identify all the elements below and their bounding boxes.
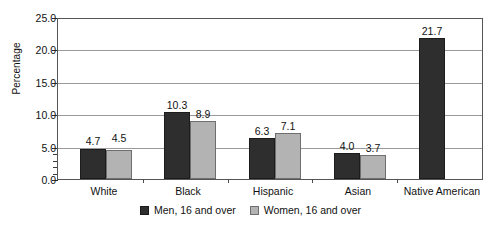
category-divider-4 [397,179,398,183]
category-label-hispanic: Hispanic [231,185,315,197]
chart-legend: Men, 16 and over Women, 16 and over [0,205,501,216]
legend-item-women[interactable]: Women, 16 and over [250,205,361,216]
women-swatch-icon [250,206,259,215]
bar-value-hispanic-men: 6.3 [249,126,275,137]
bar-value-white-women: 4.5 [106,133,132,144]
bar-value-hispanic-women: 7.1 [275,121,301,132]
legend-label-women: Women, 16 and over [264,205,361,216]
bar-black-women[interactable] [190,121,216,179]
y-tick-15: 15.0 [16,78,56,88]
legend-label-men: Men, 16 and over [154,205,236,216]
bar-value-black-women: 8.9 [190,109,216,120]
y-tick-0: 0.0 [16,175,56,185]
y-tick-25: 25.0 [16,13,56,23]
bar-value-asian-women: 3.7 [360,143,386,154]
bar-asian-men[interactable] [334,153,360,179]
bar-value-asian-men: 4.0 [334,141,360,152]
bar-white-women[interactable] [106,150,132,179]
men-swatch-icon [140,206,149,215]
bar-asian-women[interactable] [360,155,386,179]
bar-native-american-men[interactable] [419,38,445,179]
category-label-white: White [62,185,146,197]
y-tick-10: 10.0 [16,110,56,120]
plot-area: 4.7 4.5 10.3 8.9 6.3 7.1 4.0 3.7 21.7 [57,18,483,180]
category-divider-3 [312,179,313,183]
category-label-black: Black [146,185,230,197]
tick-mark-0 [52,180,58,181]
y-axis-tick-labels: 25.0 20.0 15.0 10.0 5.0 0.0 [16,0,56,230]
bar-white-men[interactable] [80,149,106,180]
bar-hispanic-men[interactable] [249,138,275,179]
category-divider-1 [143,179,144,183]
category-label-asian: Asian [316,185,400,197]
y-tick-5: 5.0 [16,143,56,153]
category-divider-2 [228,179,229,183]
y-tick-20: 20.0 [16,45,56,55]
bar-value-native-american-men: 21.7 [419,26,445,37]
bar-value-white-men: 4.7 [80,136,106,147]
bar-chart: Percentage 25.0 20.0 15.0 10.0 5.0 0.0 4… [0,0,501,230]
bar-hispanic-women[interactable] [275,133,301,179]
bar-black-men[interactable] [164,112,190,179]
bar-value-black-men: 10.3 [164,100,190,111]
legend-item-men[interactable]: Men, 16 and over [140,205,236,216]
category-label-native-american: Native American [396,185,488,197]
